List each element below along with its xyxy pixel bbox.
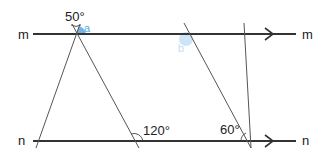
angle-label-50: 50° (65, 9, 85, 24)
angle-label-60: 60° (220, 122, 240, 137)
transversal-right-2 (244, 23, 251, 148)
label-m-left: m (18, 27, 29, 42)
label-m-right: m (302, 27, 313, 42)
unknown-label-a: a (84, 22, 91, 34)
label-n-left: n (18, 133, 25, 148)
transversal-right-1 (184, 23, 251, 148)
parallel-lines-diagram: m m n n 50° 120° 60° a b (0, 0, 327, 156)
angle-label-120: 120° (143, 123, 170, 138)
transversal-left-1 (36, 24, 80, 148)
unknown-label-b: b (178, 42, 184, 54)
label-n-right: n (302, 133, 309, 148)
transversal-left-2 (72, 24, 139, 148)
